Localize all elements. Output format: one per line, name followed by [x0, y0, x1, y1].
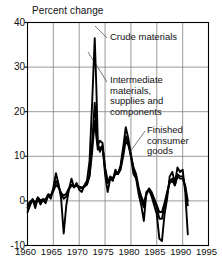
x-tick-1960: 1960 — [15, 247, 36, 257]
x-tick-1970: 1970 — [67, 247, 88, 257]
x-tick-1985: 1985 — [144, 247, 165, 257]
percent-change-chart: Percent change 40 30 20 10 0 -10 Crude m… — [0, 0, 222, 269]
x-tick-1995: 1995 — [196, 247, 217, 257]
annotation-line: supplies and — [110, 96, 163, 107]
x-axis-tick-labels: 19601965197019751980198519901995 — [0, 247, 222, 267]
x-tick-1990: 1990 — [170, 247, 191, 257]
x-tick-1980: 1980 — [118, 247, 139, 257]
x-tick-1965: 1965 — [41, 247, 62, 257]
annotation-line: goods — [147, 146, 189, 157]
annotation-crude-materials: Crude materials — [110, 32, 177, 43]
annotation-line: Intermediate — [110, 75, 163, 86]
annotation-intermediate-materials: Intermediatematerials,supplies andcompon… — [110, 75, 163, 117]
x-tick-1975: 1975 — [93, 247, 114, 257]
annotation-line: components — [110, 107, 163, 118]
annotation-finished-consumer-goods: Finishedconsumergoods — [147, 125, 189, 157]
annotation-line: Finished — [147, 125, 189, 136]
annotation-line: Crude materials — [110, 32, 177, 43]
